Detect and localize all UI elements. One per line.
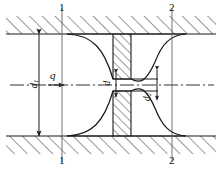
pipe-wall-top <box>6 16 216 34</box>
label-pipe-diameter: d1 <box>28 73 40 95</box>
label-flow-rate: q <box>50 70 56 81</box>
section-marker-2-top: 2 <box>169 2 175 13</box>
figure-canvas: 1 1 2 2 d1 q d d2 <box>0 0 222 170</box>
section-marker-1-bottom: 1 <box>59 155 65 166</box>
label-contracted-diameter: d2 <box>142 88 153 106</box>
section-marker-1-top: 1 <box>59 2 65 13</box>
pipe-wall-bottom <box>6 136 216 154</box>
section-marker-2-bottom: 2 <box>169 155 175 166</box>
label-orifice-diameter: d <box>102 74 113 92</box>
